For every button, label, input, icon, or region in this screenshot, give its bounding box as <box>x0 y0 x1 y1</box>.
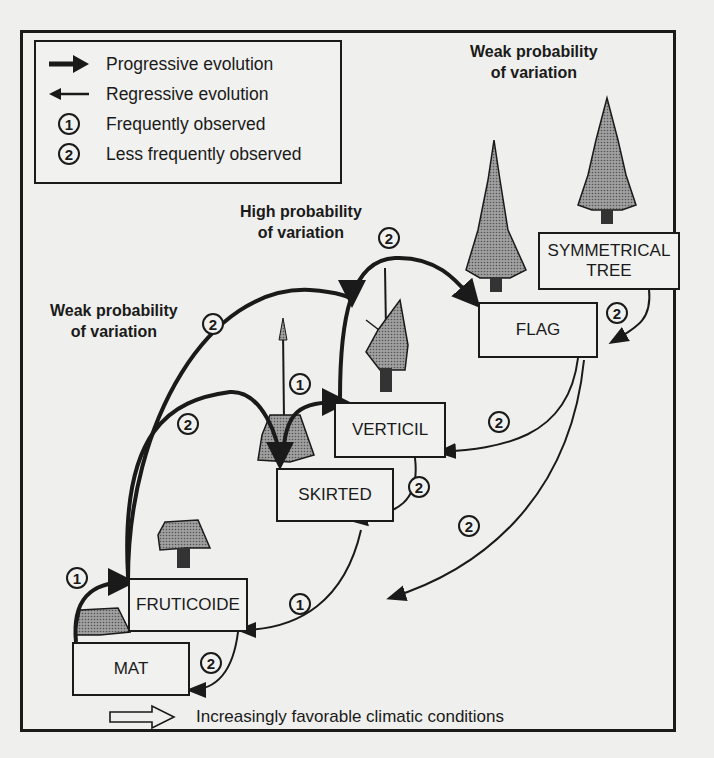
tree-verticil-icon <box>366 268 408 392</box>
frequency-badge-2: 2 <box>200 652 222 674</box>
hollow-arrow-right-icon <box>108 704 178 730</box>
frequency-badge-2: 2 <box>202 313 224 335</box>
annotation-weak-top: Weak probability of variation <box>470 42 598 84</box>
annotation-high-mid: High probability of variation <box>240 202 362 244</box>
frequency-badge-2: 2 <box>408 476 430 498</box>
frequency-badge-1: 1 <box>289 593 311 615</box>
tree-fruticoide-icon <box>158 520 210 568</box>
frequency-badge-1: 1 <box>289 373 311 395</box>
tree-symmetrical-icon <box>578 98 636 224</box>
legend-item-less-frequent: 2 Less frequently observed <box>44 140 302 168</box>
node-symmetrical-tree: SYMMETRICAL TREE <box>538 232 680 290</box>
legend: Progressive evolution Regressive evoluti… <box>34 40 342 184</box>
frequency-badge-1: 1 <box>66 567 88 589</box>
legend-label: Progressive evolution <box>106 54 273 75</box>
node-flag: FLAG <box>478 302 598 358</box>
node-mat: MAT <box>72 642 190 696</box>
thick-arrow-right-icon <box>44 50 94 78</box>
footer-label: Increasingly favorable climatic conditio… <box>196 707 504 727</box>
frequency-badge-2: 2 <box>606 302 628 324</box>
annotation-weak-left: Weak probability of variation <box>50 301 178 343</box>
circled-one-icon: 1 <box>58 113 80 135</box>
node-verticil: VERTICIL <box>334 402 446 458</box>
legend-item-regressive: Regressive evolution <box>44 80 268 108</box>
legend-item-progressive: Progressive evolution <box>44 50 273 78</box>
node-skirted: SKIRTED <box>276 468 394 522</box>
legend-label: Less frequently observed <box>106 144 302 165</box>
legend-item-frequent: 1 Frequently observed <box>44 110 266 138</box>
frequency-badge-2: 2 <box>458 515 480 537</box>
frequency-badge-2: 2 <box>488 411 510 433</box>
legend-label: Frequently observed <box>106 114 266 135</box>
thin-arrow-left-icon <box>44 80 94 108</box>
tree-flag-icon <box>466 140 526 292</box>
frequency-badge-2: 2 <box>177 413 199 435</box>
node-fruticoide: FRUTICOIDE <box>128 578 248 632</box>
footer-caption: Increasingly favorable climatic conditio… <box>108 704 504 730</box>
legend-label: Regressive evolution <box>106 84 268 105</box>
frequency-badge-2: 2 <box>378 227 400 249</box>
tree-mat-icon <box>75 608 130 635</box>
circled-two-icon: 2 <box>58 143 80 165</box>
